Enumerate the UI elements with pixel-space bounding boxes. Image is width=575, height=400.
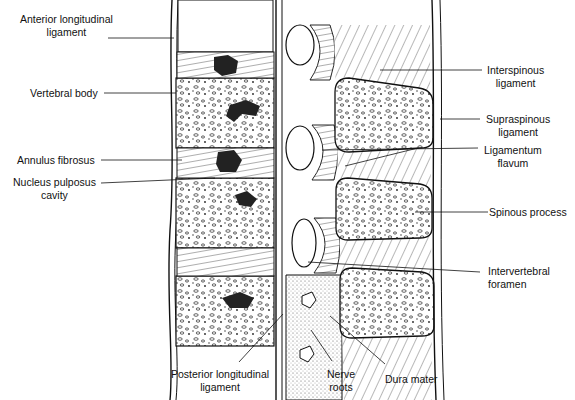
label-interspinous-ligament: Interspinous ligament: [487, 64, 544, 89]
label-supraspinous-ligament: Supraspinous ligament: [486, 113, 550, 138]
label-dura-mater: Dura mater: [385, 373, 438, 386]
label-intervertebral-foramen: Intervertebral foramen: [488, 265, 550, 290]
label-vertebral-body: Vertebral body: [30, 87, 98, 100]
label-annulus-fibrosus: Annulus fibrosus: [17, 154, 95, 167]
spine-diagram: Anterior longitudinal ligament Vertebral…: [0, 0, 575, 400]
label-ligamentum-flavum: Ligamentum flavum: [484, 144, 542, 169]
label-spinous-process: Spinous process: [489, 206, 567, 219]
label-nucleus-pulposus-cavity: Nucleus pulposus cavity: [13, 176, 96, 201]
label-nerve-roots: Nerve roots: [327, 368, 355, 393]
label-anterior-longitudinal-ligament: Anterior longitudinal ligament: [20, 13, 113, 38]
label-posterior-longitudinal-ligament: Posterior longitudinal ligament: [171, 368, 269, 393]
